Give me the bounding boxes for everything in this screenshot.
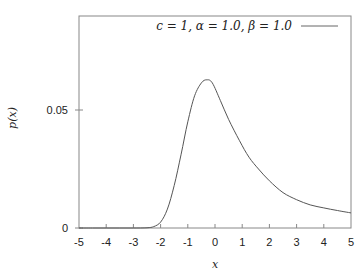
- x-tick-label: -5: [74, 236, 84, 248]
- x-tick-label: -1: [183, 236, 193, 248]
- x-tick-label: 0: [212, 236, 218, 248]
- y-tick-label: 0: [62, 222, 68, 234]
- chart: -5-4-3-2-1012345 00.05 x p(x) c = 1, α =…: [0, 0, 363, 276]
- density-curve: [79, 80, 351, 228]
- y-axis-ticks: 00.05: [47, 104, 83, 234]
- y-axis-label: p(x): [6, 107, 19, 129]
- x-tick-label: -2: [156, 236, 166, 248]
- x-tick-label: 5: [348, 236, 354, 248]
- x-tick-label: -4: [101, 236, 111, 248]
- x-tick-label: 1: [239, 236, 245, 248]
- legend-entry-label: c = 1, α = 1.0, β = 1.0: [156, 19, 292, 33]
- y-tick-label: 0.05: [47, 104, 68, 116]
- x-tick-label: 4: [321, 236, 327, 248]
- x-tick-label: 2: [266, 236, 272, 248]
- x-tick-label: 3: [294, 236, 300, 248]
- x-axis-label: x: [212, 258, 219, 271]
- x-tick-label: -3: [129, 236, 139, 248]
- legend: c = 1, α = 1.0, β = 1.0: [156, 19, 338, 33]
- plot-frame: [79, 16, 351, 228]
